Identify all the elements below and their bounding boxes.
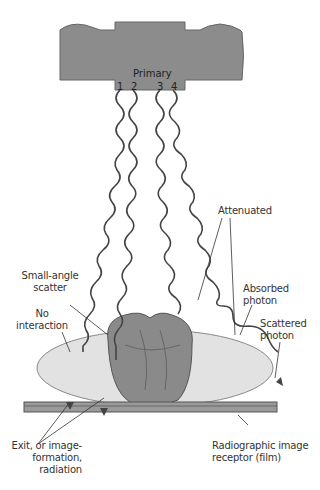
label-attenuated: Attenuated bbox=[218, 205, 272, 217]
label-no-interaction: No interaction bbox=[12, 308, 72, 332]
xray-tube bbox=[60, 22, 244, 90]
image-receptor-film bbox=[24, 402, 277, 412]
photon-1 bbox=[83, 90, 124, 352]
beam-number-2: 2 bbox=[131, 81, 137, 92]
beam-number-3: 3 bbox=[157, 81, 163, 92]
label-absorbed-photon: Absorbed photon bbox=[243, 283, 289, 307]
primary-label: Primary bbox=[133, 68, 172, 79]
beam-number-4: 4 bbox=[171, 81, 177, 92]
photon-4 bbox=[169, 90, 278, 352]
label-exit-radiation: Exit, or image- formation, radiation bbox=[2, 440, 82, 476]
label-scattered-photon: Scattered photon bbox=[260, 318, 307, 342]
beam-number-1: 1 bbox=[117, 81, 123, 92]
label-small-angle-scatter: Small-angle scatter bbox=[15, 270, 85, 294]
label-image-receptor: Radiographic image receptor (film) bbox=[212, 440, 308, 464]
